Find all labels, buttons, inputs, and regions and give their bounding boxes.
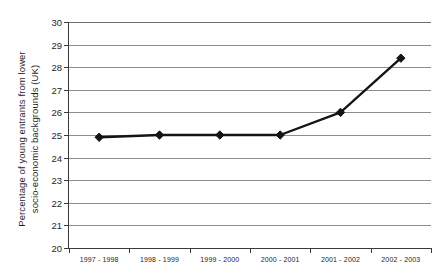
y-axis-tick-label: 29 bbox=[51, 39, 62, 50]
chart-figure: Percentage of young entrants from lower … bbox=[0, 0, 440, 277]
y-axis-tick-label: 22 bbox=[51, 197, 62, 208]
data-point-marker bbox=[216, 131, 224, 139]
y-axis-title-line-2: socio-economic backgrounds (UK) bbox=[28, 21, 41, 257]
x-axis-tick-mark bbox=[69, 248, 70, 253]
y-axis-title: Percentage of young entrants from lower … bbox=[15, 21, 41, 257]
y-axis-tick-label: 30 bbox=[51, 17, 62, 28]
data-point-marker bbox=[155, 131, 163, 139]
y-axis-tick-label: 28 bbox=[51, 62, 62, 73]
x-axis-tick-mark bbox=[129, 248, 130, 253]
y-axis-tick-label: 25 bbox=[51, 130, 62, 141]
x-axis-tick-mark bbox=[250, 248, 251, 253]
y-axis-tick-label: 21 bbox=[51, 220, 62, 231]
line-series bbox=[69, 22, 431, 248]
y-axis-tick-label: 23 bbox=[51, 175, 62, 186]
y-axis-tick-label: 20 bbox=[51, 243, 62, 254]
data-point-marker bbox=[95, 133, 103, 141]
x-axis-tick-label: 1999 - 2000 bbox=[200, 256, 239, 263]
x-axis-tick-label: 1997 - 1998 bbox=[80, 256, 119, 263]
y-axis-title-line-1: Percentage of young entrants from lower bbox=[16, 51, 27, 227]
series-line bbox=[99, 58, 401, 137]
x-axis-tick-mark bbox=[431, 248, 432, 253]
x-axis-tick-label: 2002 - 2003 bbox=[381, 256, 420, 263]
x-axis-tick-mark bbox=[190, 248, 191, 253]
y-axis-title-container: Percentage of young entrants from lower … bbox=[0, 0, 56, 277]
x-axis-tick-label: 2001 - 2002 bbox=[321, 256, 360, 263]
data-point-marker bbox=[276, 131, 284, 139]
plot-area: 2021222324252627282930 1997 - 19981998 -… bbox=[68, 22, 431, 249]
x-axis-tick-mark bbox=[371, 248, 372, 253]
y-axis-tick-label: 24 bbox=[51, 152, 62, 163]
x-axis-tick-mark bbox=[310, 248, 311, 253]
y-axis-tick-label: 27 bbox=[51, 84, 62, 95]
x-axis-tick-label: 1998 - 1999 bbox=[140, 256, 179, 263]
y-axis-tick-label: 26 bbox=[51, 107, 62, 118]
x-axis-tick-label: 2000 - 2001 bbox=[261, 256, 300, 263]
